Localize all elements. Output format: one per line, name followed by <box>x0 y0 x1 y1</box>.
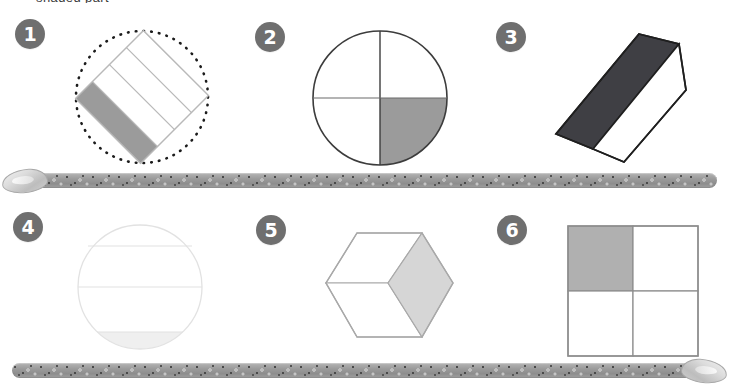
hexagon-halves-svg <box>540 22 705 172</box>
rotated-rectangle-dotted-circle-svg <box>62 25 222 170</box>
problem-figure-5 <box>318 225 458 350</box>
divider-cap-right <box>680 357 728 384</box>
circle-horizontal-bands-svg <box>70 222 210 352</box>
divider-cap-left <box>1 167 49 194</box>
page-header-crop: shaded part <box>0 0 729 3</box>
worksheet-page: shaded part 1 2 <box>0 0 729 390</box>
hexagon-thirds-svg <box>318 225 458 350</box>
problem-number-badge-3: 3 <box>496 22 526 52</box>
quadrant-top-left-shaded <box>568 226 633 291</box>
divider-bar-1 <box>12 173 717 188</box>
quadrant-bottom-right <box>633 291 698 356</box>
problem-number-badge-2: 2 <box>255 22 285 52</box>
problem-figure-3 <box>540 22 705 172</box>
square-quarters-svg <box>566 224 701 359</box>
problem-figure-2 <box>310 28 450 168</box>
problem-figure-6 <box>566 224 701 359</box>
problem-number-badge-4: 4 <box>13 212 43 242</box>
problem-number-label-5: 5 <box>264 221 277 240</box>
problem-number-label-3: 3 <box>504 28 517 47</box>
problem-number-badge-1: 1 <box>15 19 45 49</box>
page-header-text: shaded part <box>0 0 729 3</box>
quarter-top-right <box>380 31 447 98</box>
problem-figure-1 <box>62 25 222 170</box>
circle-quarters-svg <box>310 28 450 168</box>
divider-bar-2 <box>12 363 717 378</box>
problem-number-label-6: 6 <box>505 221 518 240</box>
band-bottom-shaded <box>70 332 210 362</box>
problem-figure-4 <box>70 222 210 352</box>
problem-number-label-2: 2 <box>263 28 276 47</box>
quarter-top-left <box>313 31 380 98</box>
problem-number-label-4: 4 <box>21 218 34 237</box>
quadrant-bottom-left <box>568 291 633 356</box>
problem-number-badge-6: 6 <box>497 215 527 245</box>
problem-number-label-1: 1 <box>23 25 36 44</box>
problem-number-badge-5: 5 <box>256 215 286 245</box>
quadrant-top-right <box>633 226 698 291</box>
quarter-bottom-right-shaded <box>380 98 447 165</box>
quarter-bottom-left <box>313 98 380 165</box>
